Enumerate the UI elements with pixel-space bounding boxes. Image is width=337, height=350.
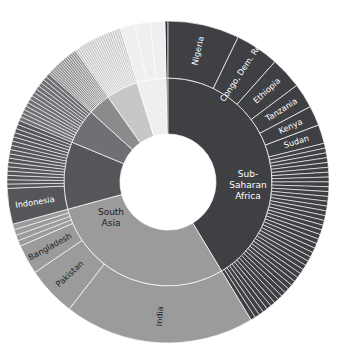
label-sub-saharan-africa-line3: Africa	[235, 191, 261, 201]
sunburst-svg: NigeriaCongo, Dem. Rep.EthiopiaTanzaniaK…	[0, 0, 337, 350]
label-sub-saharan-africa-line1: Sub-	[238, 169, 258, 179]
outer-ring	[7, 21, 329, 343]
outer-label-india: India	[154, 306, 165, 327]
label-sub-saharan-africa-line2: Saharan	[229, 180, 266, 190]
label-south-asia-line2: Asia	[102, 218, 121, 228]
sunburst-chart: NigeriaCongo, Dem. Rep.EthiopiaTanzaniaK…	[0, 0, 337, 350]
label-south-asia-line1: South	[98, 207, 124, 217]
